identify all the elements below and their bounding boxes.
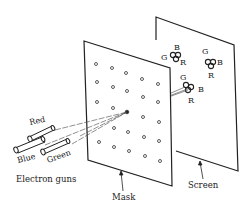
phosphor-triad-2 (205, 59, 215, 68)
crt-diagram: G B R G B R G B R (0, 0, 252, 210)
triad-1-b: B (174, 43, 180, 52)
triad-2-b: B (217, 58, 223, 67)
screen-pointer (199, 161, 204, 179)
mask-pointer (120, 171, 124, 191)
triad-1-g: G (161, 53, 167, 62)
triad-2-g: G (202, 47, 208, 56)
triad-3-b: B (198, 85, 204, 94)
triad-3-g: G (180, 73, 186, 82)
triad-3-r: R (188, 96, 195, 105)
triad-2-r: R (208, 71, 215, 80)
gun-red-label: Red (29, 115, 46, 127)
gun-blue-label: Blue (16, 152, 36, 165)
electron-guns-label: Electron guns (16, 174, 76, 184)
screen-label: Screen (188, 180, 219, 190)
mask-label: Mask (112, 192, 136, 202)
triad-1-r: R (180, 58, 187, 67)
